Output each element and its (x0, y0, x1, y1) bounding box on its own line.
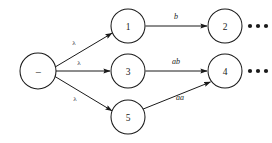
ellipsis-top-icon (248, 24, 268, 28)
node-3-label: 3 (126, 67, 131, 77)
graph-canvas: − 1 2 3 4 5 λ λ λ b ab aa (0, 0, 272, 143)
node-4-label: 4 (223, 67, 228, 77)
edge-root-to-node-1 (56, 33, 113, 67)
node-root-label: − (35, 66, 41, 78)
node-2-label: 2 (223, 22, 228, 32)
edge-label-root-to-node-3: λ (77, 59, 81, 67)
edge-label-node-5-to-node-4: aa (176, 93, 184, 102)
ellipsis-middle-icon (248, 69, 268, 73)
node-1-label: 1 (126, 22, 131, 32)
edge-label-node-3-to-node-4: ab (172, 57, 180, 66)
edge-label-root-to-node-5: λ (73, 95, 77, 103)
edge-root-to-node-5 (55, 77, 112, 111)
tree-diagram: − 1 2 3 4 5 λ λ λ b ab aa (0, 0, 272, 143)
node-5-label: 5 (126, 113, 131, 123)
edge-label-node-1-to-node-2: b (174, 12, 178, 21)
edge-label-root-to-node-1: λ (72, 39, 76, 47)
